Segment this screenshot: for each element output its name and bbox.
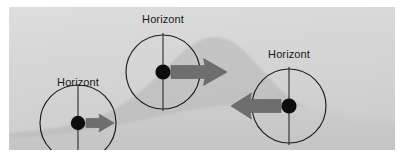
- horizont-label-middle: Horizont: [142, 13, 184, 25]
- center-dot: [71, 116, 85, 130]
- center-dot: [281, 98, 296, 113]
- center-dot: [155, 64, 170, 79]
- plate: Horizont Horizont: [9, 7, 395, 160]
- horizont-label-left: Horizont: [57, 76, 99, 88]
- diagram-container: Horizont Horizont: [0, 0, 408, 160]
- horizont-hill-diagram: Horizont Horizont: [0, 0, 408, 160]
- horizont-label-right: Horizont: [268, 48, 310, 60]
